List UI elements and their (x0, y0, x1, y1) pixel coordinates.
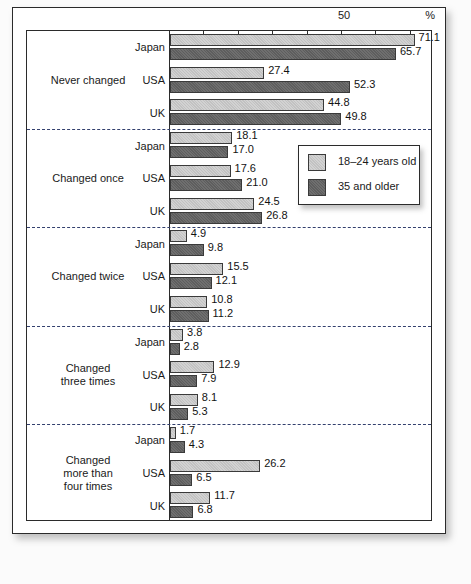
bar-older (170, 408, 188, 420)
bar-value-young: 11.7 (214, 489, 235, 501)
bar-pair: 8.15.3 (170, 391, 431, 424)
row-label-usa: USA (113, 74, 165, 86)
chart-row: UK11.76.8 (27, 489, 431, 522)
row-label-japan: Japan (113, 336, 165, 348)
chart-row: USA15.512.1 (27, 260, 431, 293)
bar-value-young: 26.2 (264, 457, 285, 469)
bar-value-young: 27.4 (268, 64, 289, 76)
row-label-usa: USA (113, 172, 165, 184)
bar-value-older: 4.3 (189, 438, 204, 450)
chart-row: USA27.452.3 (27, 64, 431, 97)
bar-value-young: 8.1 (202, 391, 217, 403)
bar-value-young: 10.8 (211, 293, 232, 305)
bar-value-young: 18.1 (236, 129, 257, 141)
row-label-uk: UK (113, 205, 165, 217)
bar-pair: 1.74.3 (170, 424, 431, 457)
bar-older (170, 506, 193, 518)
legend-label-young: 18–24 years old (338, 155, 416, 167)
light-gray-swatch-icon (308, 154, 326, 171)
bar-young (170, 99, 324, 111)
chart-group: Never changedJapan71.165.7USA27.452.3UK4… (27, 31, 431, 129)
bar-older (170, 474, 192, 486)
figure-root: 50 % Never changedJapan71.165.7USA27.452… (0, 0, 471, 584)
chart-legend: 18–24 years old 35 and older (298, 145, 420, 205)
row-label-japan: Japan (113, 434, 165, 446)
row-label-japan: Japan (113, 140, 165, 152)
bar-pair: 27.452.3 (170, 64, 431, 97)
row-label-usa: USA (113, 467, 165, 479)
row-label-usa: USA (113, 369, 165, 381)
chart-row: Japan3.82.8 (27, 326, 431, 359)
bar-value-older: 17.0 (232, 143, 253, 155)
bar-young (170, 165, 231, 177)
bar-value-older: 52.3 (354, 78, 375, 90)
bar-pair: 3.82.8 (170, 326, 431, 359)
legend-label-older: 35 and older (338, 180, 399, 192)
bar-pair: 11.76.8 (170, 489, 431, 522)
bar-older (170, 212, 262, 224)
bar-value-young: 4.9 (191, 227, 206, 239)
bar-older (170, 48, 396, 60)
bar-value-older: 7.9 (201, 372, 216, 384)
row-label-usa: USA (113, 270, 165, 282)
axis-header: 50 % (13, 8, 445, 30)
bar-young (170, 198, 254, 210)
bar-value-older: 49.8 (345, 110, 366, 122)
row-label-japan: Japan (113, 238, 165, 250)
bar-older (170, 113, 341, 125)
chart-outer-frame: 50 % Never changedJapan71.165.7USA27.452… (12, 7, 446, 534)
bar-older (170, 343, 180, 355)
bar-value-older: 26.8 (266, 209, 287, 221)
bar-older (170, 244, 204, 256)
bar-older (170, 146, 228, 158)
bar-value-older: 65.7 (400, 45, 421, 57)
bar-young (170, 67, 264, 79)
chart-row: Japan1.74.3 (27, 424, 431, 457)
bar-young (170, 296, 207, 308)
bar-value-young: 44.8 (328, 96, 349, 108)
bar-pair: 10.811.2 (170, 293, 431, 326)
bar-young (170, 460, 260, 472)
chart-group: Changedthree timesJapan3.82.8USA12.97.9U… (27, 326, 431, 424)
chart-row: USA26.26.5 (27, 457, 431, 490)
row-label-uk: UK (113, 107, 165, 119)
bar-value-older: 21.0 (246, 176, 267, 188)
bar-older (170, 277, 212, 289)
bar-older (170, 441, 185, 453)
bar-pair: 4.99.8 (170, 227, 431, 260)
bar-value-young: 15.5 (227, 260, 248, 272)
bar-value-older: 6.8 (197, 503, 212, 515)
row-label-uk: UK (113, 401, 165, 413)
row-label-uk: UK (113, 303, 165, 315)
bar-value-older: 5.3 (192, 405, 207, 417)
bar-pair: 15.512.1 (170, 260, 431, 293)
bar-pair: 26.26.5 (170, 457, 431, 490)
bar-older (170, 375, 197, 387)
bar-value-young: 3.8 (187, 326, 202, 338)
axis-tick-label-50: 50 (319, 9, 369, 21)
row-label-japan: Japan (113, 41, 165, 53)
chart-row: Japan4.99.8 (27, 227, 431, 260)
bar-value-young: 71.1 (419, 31, 440, 43)
bar-pair: 44.849.8 (170, 96, 431, 129)
chart-row: USA12.97.9 (27, 358, 431, 391)
bar-older (170, 310, 209, 322)
bar-pair: 71.165.7 (170, 31, 431, 64)
bar-value-young: 24.5 (258, 195, 279, 207)
bar-older (170, 179, 242, 191)
bar-value-young: 12.9 (218, 358, 239, 370)
bar-young (170, 132, 232, 144)
bar-young (170, 230, 187, 242)
dark-gray-swatch-icon (308, 179, 326, 196)
bar-older (170, 81, 350, 93)
bar-value-young: 17.6 (235, 162, 256, 174)
chart-group: Changedmore thanfour timesJapan1.74.3USA… (27, 424, 431, 522)
bar-value-older: 11.2 (213, 307, 234, 319)
plot-area: Never changedJapan71.165.7USA27.452.3UK4… (26, 30, 432, 521)
bar-value-older: 12.1 (216, 274, 237, 286)
bar-value-young: 1.7 (180, 424, 195, 436)
bar-pair: 12.97.9 (170, 358, 431, 391)
bar-value-older: 2.8 (184, 340, 199, 352)
axis-unit-label: % (425, 9, 435, 21)
chart-group: Changed twiceJapan4.99.8USA15.512.1UK10.… (27, 227, 431, 325)
